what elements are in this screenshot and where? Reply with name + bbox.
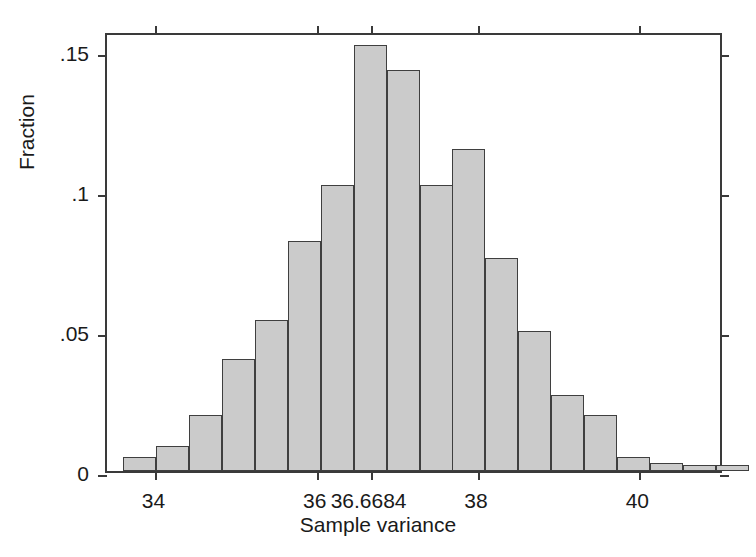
histogram-bar — [518, 331, 551, 471]
histogram-bar — [420, 185, 453, 471]
y-axis-tick-right — [720, 195, 729, 197]
histogram-bar — [452, 149, 485, 471]
x-tick-label: 38 — [406, 490, 546, 511]
histogram-bar — [321, 185, 354, 471]
histogram-bar — [387, 70, 420, 471]
histogram-bar — [683, 465, 716, 471]
y-axis-tick-right — [720, 55, 729, 57]
histogram-bar — [123, 457, 156, 471]
x-axis-tick-top — [478, 26, 480, 35]
y-tick-label: 0 — [77, 463, 89, 484]
y-axis-title: Fraction — [14, 144, 40, 170]
x-tick-label: 40 — [567, 490, 707, 511]
histogram-bar — [255, 320, 288, 471]
bars-layer — [107, 35, 720, 471]
plot-area — [105, 33, 722, 473]
histogram-bar — [222, 359, 255, 471]
histogram-figure: Fraction 0.05.1.15 343636.66843840 Sampl… — [0, 0, 756, 557]
y-axis-tick — [98, 55, 107, 57]
histogram-bar — [716, 465, 749, 471]
x-axis-tick-top — [639, 26, 641, 35]
x-axis-tick-top — [371, 26, 373, 35]
y-tick-label: .05 — [60, 323, 89, 344]
y-axis-tick — [98, 335, 107, 337]
histogram-bar — [156, 446, 189, 471]
histogram-bar — [354, 45, 387, 471]
y-tick-label: .15 — [60, 43, 89, 64]
histogram-bar — [617, 457, 650, 471]
x-axis-tick-top — [317, 26, 319, 35]
x-axis-tick — [639, 471, 641, 480]
x-axis-tick — [371, 471, 373, 480]
histogram-bar — [650, 463, 683, 471]
histogram-bar — [551, 395, 584, 471]
y-axis-tick — [98, 475, 107, 477]
x-axis-tick — [317, 471, 319, 480]
x-axis-tick — [155, 471, 157, 480]
x-axis-tick-top — [155, 26, 157, 35]
x-tick-label: 34 — [83, 490, 223, 511]
y-axis-tick-right — [720, 475, 729, 477]
y-tick-label: .1 — [71, 183, 89, 204]
histogram-bar — [189, 415, 222, 471]
histogram-bar — [288, 241, 321, 471]
y-axis-tick — [98, 195, 107, 197]
x-axis-title: Sample variance — [0, 514, 756, 535]
y-axis-tick-right — [720, 335, 729, 337]
histogram-bar — [485, 258, 518, 471]
histogram-bar — [584, 415, 617, 471]
x-axis-tick — [478, 471, 480, 480]
